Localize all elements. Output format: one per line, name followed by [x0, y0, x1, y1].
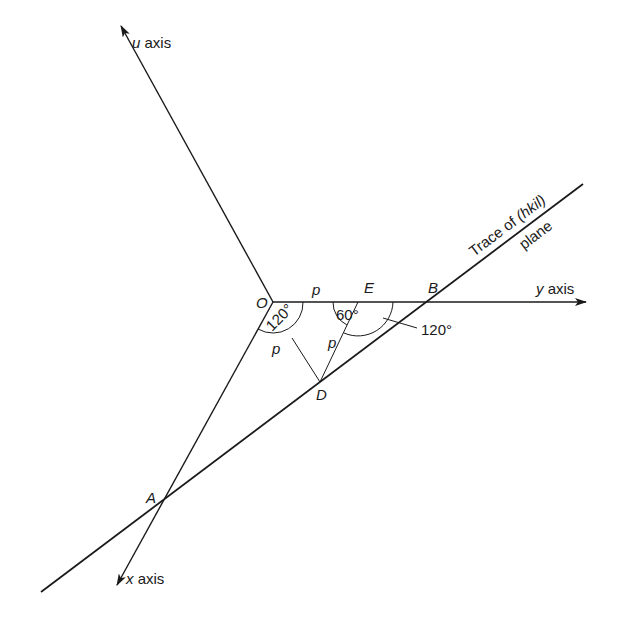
- diagram-canvas: u axis y axis x axis O E B D A p p p 120…: [0, 0, 622, 623]
- segment-ed-label: p: [327, 334, 336, 351]
- u-axis-line: [121, 26, 273, 302]
- x-axis-line: [117, 302, 273, 585]
- diagram-svg: u axis y axis x axis O E B D A p p p 120…: [0, 0, 622, 623]
- plane-trace-line: [41, 184, 583, 592]
- segment-od-label: p: [271, 340, 280, 357]
- x-axis-label: x axis: [125, 570, 164, 587]
- segment-oe-label: p: [311, 281, 320, 298]
- point-o-label: O: [256, 294, 268, 311]
- u-axis-label: u axis: [132, 34, 171, 51]
- angle-e-60-label: 60°: [336, 306, 359, 323]
- point-e-label: E: [364, 279, 375, 296]
- angle-b-120-label: 120°: [421, 321, 452, 338]
- angle-leader: [383, 318, 417, 328]
- point-a-label: A: [145, 489, 156, 506]
- y-axis-label: y axis: [535, 280, 574, 297]
- point-d-label: D: [316, 386, 327, 403]
- segment-od: [292, 338, 320, 382]
- point-b-label: B: [428, 279, 438, 296]
